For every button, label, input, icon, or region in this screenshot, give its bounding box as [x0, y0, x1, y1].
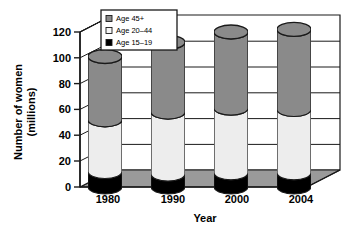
bar-top-cap: [88, 50, 122, 64]
x-tick-label-2000: 2000: [225, 193, 249, 205]
legend-swatch-age15-19: [106, 40, 112, 46]
y-tick-label: 120: [53, 26, 71, 38]
legend-swatch-age20-44: [106, 28, 112, 34]
y-tick-label: 100: [53, 52, 71, 64]
y-tick-label: 40: [59, 129, 71, 141]
legend-label-age45plus: Age 45+: [116, 14, 145, 23]
legend: Age 45+ Age 20–44 Age 15–19: [101, 10, 177, 50]
segment-age45plus: [88, 57, 122, 127]
bar-2000: [214, 25, 248, 194]
legend-label-age15-19: Age 15–19: [116, 38, 152, 47]
segment-age45plus: [214, 32, 248, 115]
segment-age45plus: [277, 29, 311, 116]
x-tick-label-2004: 2004: [289, 193, 314, 205]
x-tick-label-1990: 1990: [161, 193, 185, 205]
legend-swatch-age45plus: [106, 16, 112, 22]
segment-age45plus: [151, 42, 185, 119]
y-tick-label: 60: [59, 103, 71, 115]
y-tick-label: 20: [59, 155, 71, 167]
y-tick-label: 80: [59, 78, 71, 90]
bar-2004: [277, 22, 311, 194]
bar-top-cap: [214, 25, 248, 39]
chart-container: 120 100 80 60 40 20 0 Number of women (m…: [0, 0, 355, 232]
x-axis-title: Year: [193, 212, 217, 224]
segment-age20-44: [151, 112, 185, 181]
legend-label-age20-44: Age 20–44: [116, 26, 152, 35]
segment-age20-44: [277, 110, 311, 180]
y-axis-title-line2: (millions): [25, 87, 37, 136]
bar-1980: [88, 50, 122, 195]
bar-top-cap: [277, 22, 311, 36]
segment-age20-44: [88, 120, 122, 179]
stacked-bar-chart-svg: 120 100 80 60 40 20 0 Number of women (m…: [0, 0, 355, 232]
y-tick-label: 0: [65, 181, 71, 193]
y-axis-title-line1: Number of women: [12, 64, 24, 160]
x-tick-label-1980: 1980: [96, 193, 120, 205]
bar-1990: [151, 35, 185, 194]
segment-age20-44: [214, 108, 248, 180]
